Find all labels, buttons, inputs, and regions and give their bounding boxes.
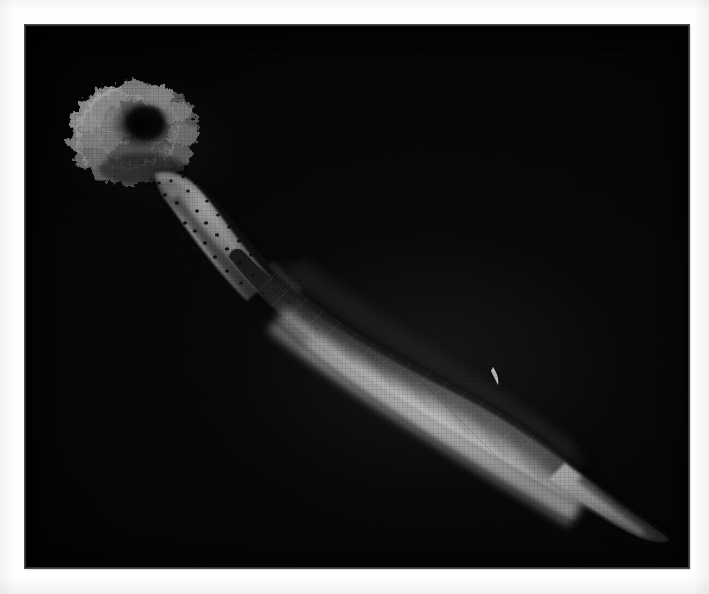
highlight-fleck <box>491 367 498 385</box>
photographic-plate <box>25 25 689 568</box>
tentacle-crown <box>67 80 199 186</box>
specimen-image <box>25 25 689 568</box>
plate-page <box>0 0 709 594</box>
